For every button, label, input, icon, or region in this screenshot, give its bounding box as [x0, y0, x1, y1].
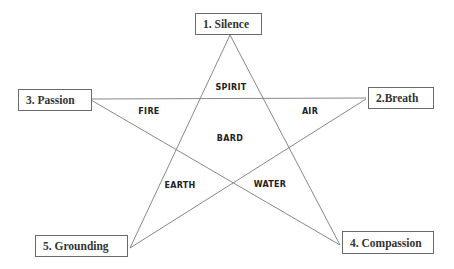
region-bard: BARD: [217, 134, 243, 143]
region-air: AIR: [302, 107, 318, 116]
region-earth: EARTH: [164, 181, 195, 190]
node-silence: 1. Silence: [195, 13, 262, 35]
line-passion-breath: [91, 98, 366, 99]
line-silence-compassion: [230, 35, 340, 245]
node-compassion: 4. Compassion: [342, 231, 434, 254]
line-passion-compassion: [91, 100, 340, 245]
region-fire: FIRE: [138, 107, 159, 116]
region-water: WATER: [254, 180, 287, 189]
node-grounding: 5. Grounding: [35, 235, 128, 257]
region-spirit: SPIRIT: [216, 83, 247, 92]
node-breath: 2.Breath: [368, 87, 434, 109]
node-passion: 3. Passion: [18, 89, 92, 111]
